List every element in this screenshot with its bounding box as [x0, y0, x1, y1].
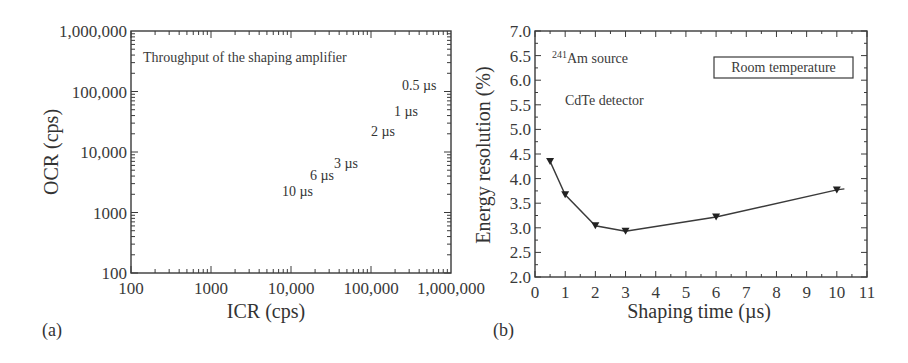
- plot-frame-a: [131, 31, 451, 273]
- curve-label: 6 µs: [310, 168, 334, 183]
- x-axis-title-a: ICR (cps): [227, 300, 305, 323]
- curve-label: 1 µs: [394, 104, 418, 119]
- x-tick-label-b: 11: [859, 283, 875, 302]
- y-tick-label-a: 1000: [93, 204, 127, 223]
- detector-annotation: CdTe detector: [565, 93, 644, 108]
- x-tick-label-b: 9: [802, 283, 811, 302]
- y-tick-label-b: 2.0: [510, 268, 531, 287]
- x-tick-label-b: 10: [828, 283, 845, 302]
- y-axis-title-b: Energy resolution (%): [472, 66, 495, 243]
- panel-label-b: (b): [493, 320, 514, 341]
- x-axis-title-b: Shaping time (µs): [627, 300, 771, 323]
- y-tick-label-b: 3.0: [510, 219, 531, 238]
- triangle-down-marker: [546, 158, 554, 165]
- x-tick-label-b: 2: [591, 283, 600, 302]
- y-tick-label-b: 6.0: [510, 71, 531, 90]
- y-tick-label-a: 100,000: [72, 83, 127, 102]
- y-tick-label-a: 100: [102, 264, 128, 283]
- y-tick-label-b: 6.5: [510, 47, 531, 66]
- panel-a-throughput-chart: 0.5 µs1 µs2 µs3 µs6 µs10 µs 100100010,00…: [40, 22, 485, 341]
- y-tick-label-b: 5.0: [510, 120, 531, 139]
- panel-b-energy-resolution-chart: 012345678910112.02.53.03.54.04.55.05.56.…: [472, 22, 875, 341]
- panel-label-a: (a): [42, 320, 62, 341]
- x-tick-label-b: 0: [531, 283, 540, 302]
- y-tick-label-b: 2.5: [510, 243, 531, 262]
- resolution-markers: [546, 158, 841, 235]
- figure: 0.5 µs1 µs2 µs3 µs6 µs10 µs 100100010,00…: [0, 0, 908, 363]
- x-tick-label-a: 1000: [194, 279, 228, 298]
- x-tick-label-a: 100,000: [343, 279, 398, 298]
- x-tick-label-b: 1: [561, 283, 570, 302]
- chart-a-title: Throughput of the shaping amplifier: [143, 50, 347, 65]
- curve-label: 0.5 µs: [402, 78, 437, 93]
- curve-label: 3 µs: [334, 156, 358, 171]
- y-axis-title-a: OCR (cps): [40, 109, 63, 195]
- source-annotation: 241Am source: [552, 49, 628, 66]
- axis-ticks-a: [131, 31, 451, 273]
- isotope-name: Am source: [567, 51, 628, 66]
- legend-box-label: Room temperature: [731, 60, 836, 75]
- curve-label: 10 µs: [282, 184, 313, 199]
- resolution-line: [550, 161, 844, 231]
- x-tick-label-b: 8: [772, 283, 781, 302]
- y-tick-label-b: 3.5: [510, 194, 531, 213]
- throughput-curves: 0.5 µs1 µs2 µs3 µs6 µs10 µs: [282, 78, 437, 199]
- y-tick-label-b: 5.5: [510, 96, 531, 115]
- y-tick-label-a: 1,000,000: [59, 22, 127, 41]
- y-tick-label-b: 4.0: [510, 170, 531, 189]
- y-tick-label-b: 7.0: [510, 22, 531, 41]
- x-tick-label-a: 1,000,000: [417, 279, 485, 298]
- x-tick-label-a: 10,000: [268, 279, 315, 298]
- y-tick-label-a: 10,000: [80, 143, 127, 162]
- curve-label: 2 µs: [371, 124, 395, 139]
- y-tick-label-b: 4.5: [510, 145, 531, 164]
- isotope-mass-number: 241: [552, 49, 567, 60]
